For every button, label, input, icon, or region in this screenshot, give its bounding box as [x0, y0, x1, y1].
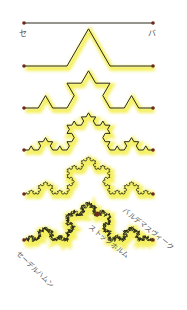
endpoint-dot — [151, 148, 155, 152]
start-label: セ — [19, 27, 27, 38]
endpoint-dot — [151, 106, 155, 110]
endpoint-dot — [151, 192, 155, 196]
curve-glow-3 — [26, 115, 155, 152]
curve-glow-1 — [26, 31, 155, 68]
endpoint-dot — [22, 21, 26, 25]
endpoint-dot — [151, 64, 155, 68]
stockholm-marker — [95, 212, 100, 217]
end-label: バ — [148, 27, 156, 38]
curve-glow-2 — [26, 73, 155, 110]
endpoint-dot — [22, 238, 26, 242]
endpoint-dot — [22, 192, 26, 196]
curve-glow-4 — [26, 159, 155, 196]
endpoint-dot — [22, 148, 26, 152]
endpoint-dot — [22, 64, 26, 68]
endpoint-dot — [22, 106, 26, 110]
endpoint-dot — [151, 21, 155, 25]
